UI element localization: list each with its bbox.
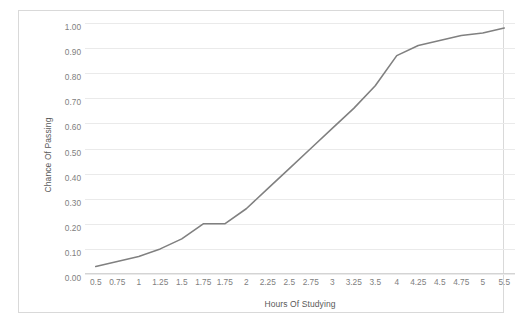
x-axis-tick-label: 0.5: [90, 277, 102, 287]
y-axis-tick-labels: 1.000.900.800.700.600.500.400.300.200.10…: [55, 25, 81, 281]
y-axis-tick-label: 0.90: [55, 47, 81, 57]
series-line-chart: [85, 23, 515, 274]
x-axis-tick-label: 2.25: [260, 277, 276, 287]
x-axis-tick-label: 1.5: [176, 277, 188, 287]
x-axis-tick-label: 0.75: [109, 277, 125, 287]
x-axis-tick-label: 4.5: [434, 277, 446, 287]
y-axis-tick-label: 0.70: [55, 97, 81, 107]
x-axis-tick-labels: 0.50.7511.251.51.751.7522.252.52.7533.25…: [85, 277, 515, 291]
y-axis-tick-label: 0.40: [55, 173, 81, 183]
x-axis-tick-label: 5: [480, 277, 485, 287]
x-axis-tick-label: 2.75: [303, 277, 319, 287]
x-axis-tick-label: 5.5: [498, 277, 510, 287]
x-axis-tick-label: 3: [330, 277, 335, 287]
y-axis-tick-label: 0.80: [55, 72, 81, 82]
chart-frame: Chance Of Passing 1.000.900.800.700.600.…: [18, 10, 504, 313]
y-axis-tick-label: 0.30: [55, 198, 81, 208]
y-axis-tick-label: 0.60: [55, 122, 81, 132]
x-axis-tick-label: 3.25: [346, 277, 362, 287]
x-axis-tick-label: 1: [136, 277, 141, 287]
x-axis-tick-label: 2: [244, 277, 249, 287]
y-axis-title: Chance Of Passing: [41, 25, 55, 285]
y-axis-title-text: Chance Of Passing: [43, 118, 53, 193]
y-axis-tick-label: 1.00: [55, 22, 81, 32]
x-axis-title: Hours Of Studying: [85, 299, 515, 309]
x-axis-tick-label: 3.5: [369, 277, 381, 287]
x-axis-tick-label: 4: [394, 277, 399, 287]
x-axis-tick-label: 1.75: [217, 277, 233, 287]
series-line-chance-of-passing: [96, 28, 505, 266]
y-axis-tick-label: 0.20: [55, 223, 81, 233]
x-axis-tick-label: 4.75: [453, 277, 469, 287]
y-axis-tick-label: 0.10: [55, 248, 81, 258]
x-axis-tick-label: 2.5: [283, 277, 295, 287]
x-axis-tick-label: 4.25: [410, 277, 426, 287]
gridline: [85, 274, 515, 275]
x-axis-tick-label: 1.25: [152, 277, 168, 287]
plot-area: [85, 23, 515, 274]
x-axis-tick-label: 1.75: [195, 277, 211, 287]
y-axis-tick-label: 0.00: [55, 273, 81, 283]
y-axis-tick-label: 0.50: [55, 148, 81, 158]
